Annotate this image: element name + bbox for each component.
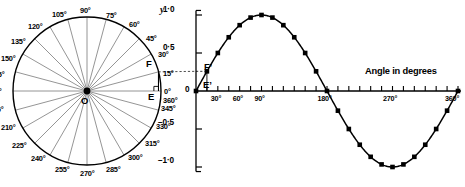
circle-angle-label-60: 60°: [129, 21, 140, 28]
data-point-marker: [259, 13, 264, 18]
circle-angle-label-150: 150°: [1, 55, 16, 62]
data-point-marker: [412, 155, 417, 160]
point-label-F: F: [146, 59, 152, 69]
circle-angle-label-135: 135°: [11, 38, 26, 45]
y-tick-label-0: 0: [185, 86, 189, 94]
data-point-marker: [226, 35, 231, 40]
circle-angle-label-285: 285°: [106, 166, 121, 173]
circle-angle-label-165: 165°: [0, 71, 5, 78]
circle-angle-label-90: 90°: [80, 7, 91, 14]
x-tick-label-360: 360°: [445, 95, 459, 102]
data-point-marker: [379, 162, 384, 167]
data-point-marker: [456, 89, 461, 94]
data-point-marker: [270, 15, 275, 20]
circle-angle-label-120: 120°: [28, 23, 43, 30]
x-tick-label-270: 270°: [383, 95, 397, 102]
annotation-label-E-prime: E’: [203, 80, 212, 90]
circle-angle-label-180: 180°: [0, 88, 2, 95]
circle-angle-label-300: 300°: [128, 154, 143, 161]
circle-angle-label-315: 315°: [145, 140, 160, 147]
data-point-marker: [390, 165, 395, 170]
circle-angle-label-195: 195°: [0, 106, 4, 113]
data-point-marker: [347, 127, 352, 132]
circle-center-dot: [84, 88, 91, 95]
point-label-E: E: [148, 92, 154, 102]
data-point-marker: [357, 142, 362, 147]
circle-angle-label-270: 270°: [80, 170, 95, 177]
data-point-marker: [368, 155, 373, 160]
data-point-marker: [237, 23, 242, 28]
data-point-marker: [434, 127, 439, 132]
x-tick-label-180: 180°: [318, 95, 332, 102]
x-tick-label-30: 30°: [211, 95, 221, 102]
x-tick-label-60: 60°: [233, 95, 243, 102]
circle-angle-label-255: 255°: [55, 166, 70, 173]
x-axis-title: Angle in degrees: [365, 67, 437, 76]
data-point-marker: [292, 35, 297, 40]
y-tick-label-0.5: 0·5: [163, 44, 174, 52]
circle-angle-label-240: 240°: [31, 155, 46, 162]
circle-angle-label-210: 210°: [1, 124, 16, 131]
right-angle-marker: [154, 86, 159, 91]
data-point-marker: [401, 162, 406, 167]
data-point-marker: [281, 23, 286, 28]
data-point-marker: [216, 51, 221, 56]
circle-angle-label-225: 225°: [12, 142, 27, 149]
circle-angle-label-75: 75°: [106, 12, 117, 19]
circle-angle-label-345: 345°: [161, 105, 176, 112]
trigonometry-figure: 0°15°30°45°60°75°90°105°120°135°150°165°…: [0, 0, 465, 187]
data-point-marker: [325, 89, 330, 94]
circle-angle-label-105: 105°: [52, 11, 67, 18]
annotation-label-F-prime: F’: [204, 62, 212, 72]
y-tick-label--0.5: −0·5: [158, 119, 174, 127]
data-point-marker: [423, 142, 428, 147]
circle-angle-label-15: 15°: [163, 70, 174, 77]
data-point-marker: [445, 108, 450, 113]
data-point-marker: [336, 108, 341, 113]
data-point-marker: [314, 69, 319, 74]
circle-center-label: O: [81, 96, 88, 106]
circle-angle-label-0: 0°: [164, 88, 171, 95]
y-tick-label--1: −1·0: [158, 157, 174, 165]
y-tick-label-1: 1·0: [163, 6, 174, 14]
data-point-marker: [194, 89, 199, 94]
x-tick-label-90: 90°: [255, 95, 265, 102]
circle-angle-label-360: 360°: [163, 97, 178, 104]
circle-angle-label-45: 45°: [146, 35, 157, 42]
data-point-marker: [303, 51, 308, 56]
data-point-marker: [248, 15, 253, 20]
